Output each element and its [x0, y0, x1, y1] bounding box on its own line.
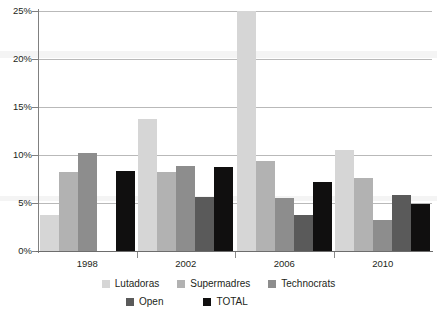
legend-swatch-icon	[102, 280, 110, 288]
legend-swatch-icon	[177, 280, 185, 288]
bar	[138, 119, 157, 251]
legend-row: OpenTOTAL	[0, 296, 437, 308]
bar	[237, 11, 256, 251]
x-axis-tick-label: 2006	[235, 258, 334, 270]
plot-area: 25%20%15%10%5%0% 1998200220062010	[0, 0, 437, 272]
bar	[354, 178, 373, 251]
bar	[313, 182, 332, 251]
bar	[157, 172, 176, 251]
legend-swatch-icon	[203, 298, 211, 306]
bars-layer	[38, 11, 432, 251]
x-axis-tick-label: 1998	[38, 258, 137, 270]
x-axis-labels: 1998200220062010	[38, 258, 432, 272]
bar	[116, 171, 135, 251]
y-axis-labels: 25%20%15%10%5%0%	[0, 0, 36, 272]
legend-label: TOTAL	[216, 296, 247, 308]
chart-legend: LutadorasSupermadresTechnocrats OpenTOTA…	[0, 276, 437, 318]
bar	[373, 220, 392, 251]
x-axis-tick-label: 2002	[137, 258, 236, 270]
legend-swatch-icon	[126, 298, 134, 306]
legend-label: Supermadres	[190, 278, 250, 290]
legend-item[interactable]: Lutadoras	[102, 278, 159, 290]
bar	[195, 197, 214, 251]
y-axis-tick-label: 0%	[18, 246, 32, 256]
y-axis-tick-label: 20%	[13, 54, 32, 64]
bar	[40, 215, 59, 251]
bar	[256, 161, 275, 251]
legend-item[interactable]: Open	[126, 296, 163, 308]
y-axis-tick-label: 15%	[13, 102, 32, 112]
legend-item[interactable]: Supermadres	[177, 278, 250, 290]
legend-label: Open	[139, 296, 163, 308]
legend-label: Lutadoras	[115, 278, 159, 290]
y-axis-tick-label: 10%	[13, 150, 32, 160]
legend-item[interactable]: TOTAL	[203, 296, 247, 308]
bar	[176, 166, 195, 251]
bar	[275, 198, 294, 251]
bar	[59, 172, 78, 251]
bar	[392, 195, 411, 251]
bar	[335, 150, 354, 251]
y-axis-tick-label: 25%	[13, 6, 32, 16]
bar	[294, 215, 313, 251]
bar	[78, 153, 97, 251]
y-axis-tick-label: 5%	[18, 198, 32, 208]
legend-label: Technocrats	[281, 278, 335, 290]
legend-row: LutadorasSupermadresTechnocrats	[0, 278, 437, 290]
legend-swatch-icon	[268, 280, 276, 288]
x-axis-tick-label: 2010	[334, 258, 433, 270]
bar	[411, 204, 430, 251]
bar-chart: 25%20%15%10%5%0% 1998200220062010 Lutado…	[0, 0, 437, 318]
bar	[214, 167, 233, 251]
legend-item[interactable]: Technocrats	[268, 278, 335, 290]
